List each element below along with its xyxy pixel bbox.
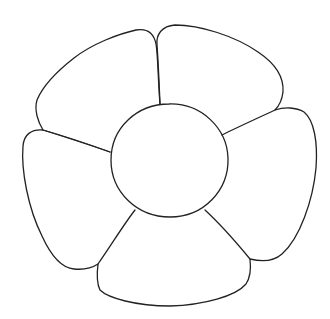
petal-top-right (157, 25, 283, 135)
petal-left (23, 130, 110, 269)
flower-icon (0, 0, 330, 319)
flower-center (111, 104, 228, 217)
petal-bottom (97, 210, 250, 306)
petal-right (205, 108, 317, 261)
flower-drawing (0, 0, 330, 319)
